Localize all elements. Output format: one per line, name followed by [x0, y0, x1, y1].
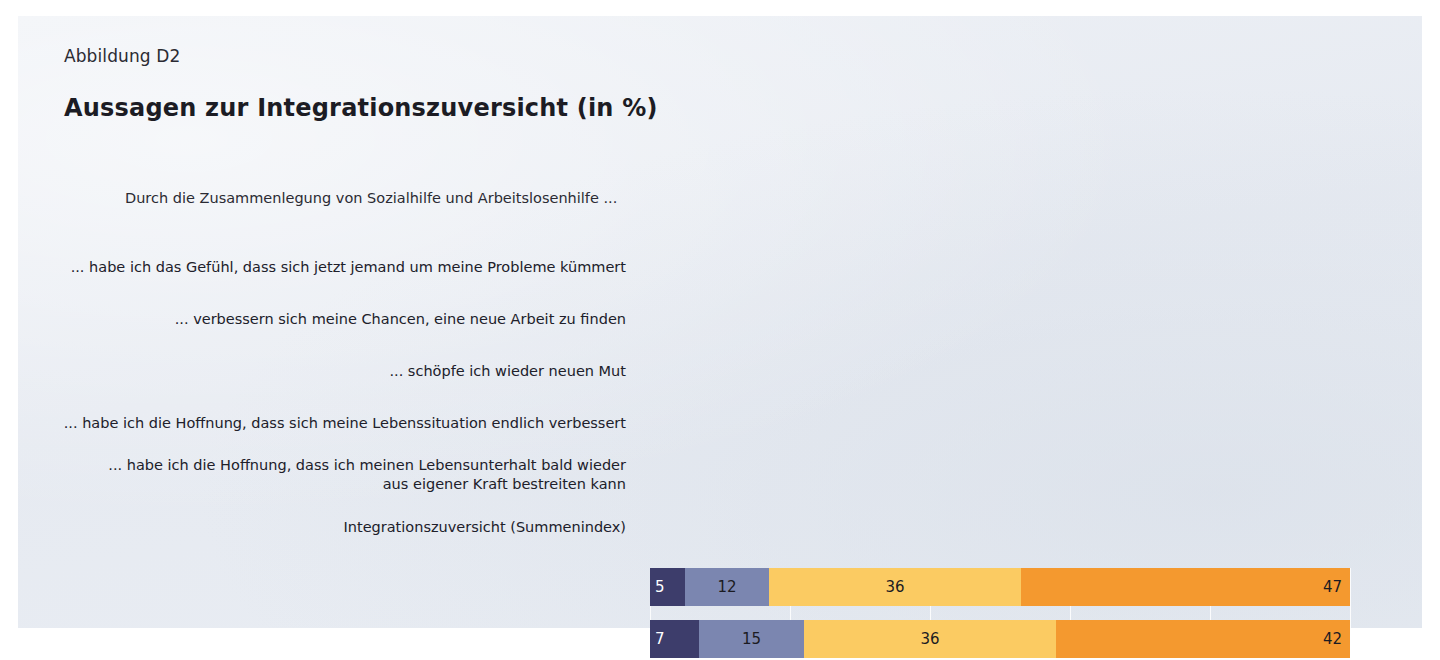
bar-segment: 42 — [1056, 620, 1350, 658]
bar-segment: 5 — [650, 568, 685, 606]
category-label: ... habe ich die Hoffnung, dass sich mei… — [64, 414, 626, 433]
bar-value-label: 7 — [655, 632, 665, 647]
category-label: ... verbessern sich meine Chancen, eine … — [175, 310, 626, 329]
plot-area: 5123647715364291734409203141152133303194… — [650, 568, 1350, 660]
bar-segment: 15 — [699, 620, 804, 658]
figure-title: Aussagen zur Integrationszuversicht (in … — [64, 94, 1440, 122]
bar-segment: 12 — [685, 568, 769, 606]
category-label: ... habe ich die Hoffnung, dass ich mein… — [108, 456, 626, 494]
bar-value-label: 12 — [685, 580, 769, 595]
figure-panel: Abbildung D2 Aussagen zur Integrationszu… — [18, 16, 1422, 628]
category-label: ... schöpfe ich wieder neuen Mut — [389, 362, 626, 381]
bar-segment: 36 — [804, 620, 1056, 658]
bar-row: 7153642 — [650, 620, 1350, 658]
gridline — [1350, 568, 1351, 660]
bar-value-label: 5 — [655, 580, 665, 595]
category-label-list: ... habe ich das Gefühl, dass sich jetzt… — [58, 248, 638, 568]
bar-segment: 7 — [650, 620, 699, 658]
figure-number: Abbildung D2 — [64, 46, 1440, 66]
bar-value-label: 36 — [804, 632, 1056, 647]
bar-segment: 47 — [1021, 568, 1350, 606]
category-label: ... habe ich das Gefühl, dass sich jetzt… — [71, 258, 626, 277]
category-label: Integrationszuversicht (Summenindex) — [344, 518, 627, 537]
figure-subtitle: Durch die Zusammenlegung von Sozialhilfe… — [125, 190, 1440, 206]
bar-segment: 36 — [769, 568, 1021, 606]
bar-row: 5123647 — [650, 568, 1350, 606]
bar-value-label: 47 — [1323, 580, 1342, 595]
bar-value-label: 15 — [699, 632, 804, 647]
bar-value-label: 36 — [769, 580, 1021, 595]
bar-value-label: 42 — [1323, 632, 1342, 647]
bar-rows: 5123647715364291734409203141152133303194… — [650, 568, 1350, 660]
